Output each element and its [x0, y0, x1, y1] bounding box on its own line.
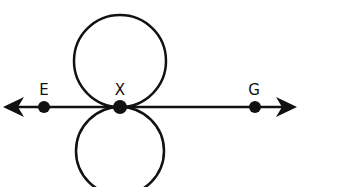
point-e: E — [38, 81, 50, 113]
point-g: G — [248, 81, 261, 113]
point-e-label: E — [39, 81, 48, 99]
point-x-label: X — [115, 81, 125, 99]
geometry-diagram: E X G — [0, 0, 342, 187]
point-g-label: G — [248, 81, 260, 99]
lower-circle — [76, 107, 164, 187]
point-x: X — [113, 81, 127, 114]
